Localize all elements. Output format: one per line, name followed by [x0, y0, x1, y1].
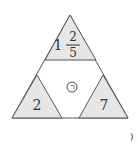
mixed-number-whole: 1 — [54, 37, 63, 53]
corner-mark: ) — [130, 132, 134, 142]
triangle-diagram: 1 2 5 2 7 ㄱ ) — [0, 0, 138, 144]
fraction-denominator: 5 — [69, 46, 77, 60]
fraction-numerator: 2 — [69, 30, 77, 44]
right-value: 7 — [100, 97, 109, 113]
center-label: ㄱ — [69, 84, 75, 92]
left-value: 2 — [33, 97, 42, 113]
